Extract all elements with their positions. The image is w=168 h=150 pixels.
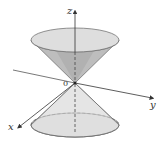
origin-label: 0 (63, 80, 68, 88)
double-cone-diagram: z y x 0 (0, 0, 168, 150)
y-axis-label: y (150, 100, 156, 110)
x-axis-label: x (8, 122, 14, 132)
z-axis-label: z (67, 6, 72, 16)
diagram-canvas (0, 0, 168, 150)
origin-point (74, 82, 77, 85)
